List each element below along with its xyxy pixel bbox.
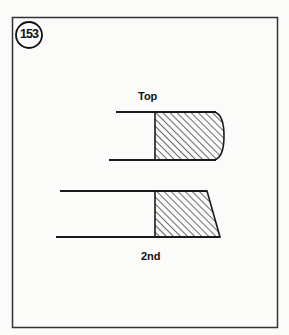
second-ring-cross-section <box>155 191 220 237</box>
second-ring-profile <box>56 191 220 237</box>
top-ring-profile <box>109 112 224 160</box>
figure-frame <box>13 18 278 328</box>
top-ring-cross-section <box>155 112 224 160</box>
figure-number: 153 <box>18 27 40 41</box>
second-ring-label: 2nd <box>141 250 161 262</box>
top-ring-label: Top <box>138 90 157 102</box>
piston-ring-profile-diagram <box>0 0 289 335</box>
